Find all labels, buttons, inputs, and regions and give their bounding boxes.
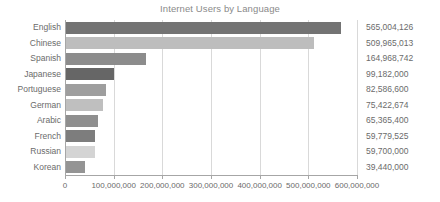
x-tick-label: 0 bbox=[63, 181, 67, 190]
bar-row: German75,422,674 bbox=[0, 98, 440, 114]
bar[interactable] bbox=[66, 130, 95, 142]
axis-tickmark bbox=[65, 175, 66, 179]
bar[interactable] bbox=[66, 68, 114, 80]
category-label: Korean bbox=[0, 160, 61, 176]
axis-tickmark bbox=[114, 175, 115, 179]
x-tick-label: 200,000,000 bbox=[140, 181, 185, 190]
bar-value-label: 509,965,013 bbox=[366, 36, 413, 52]
category-label: Spanish bbox=[0, 51, 61, 67]
bar[interactable] bbox=[66, 53, 146, 65]
chart-title: Internet Users by Language bbox=[0, 3, 440, 14]
x-tick-label: 400,000,000 bbox=[237, 181, 282, 190]
bar-row: Chinese509,965,013 bbox=[0, 36, 440, 52]
bar-value-label: 82,586,600 bbox=[366, 82, 409, 98]
bar[interactable] bbox=[66, 115, 98, 127]
category-label: English bbox=[0, 20, 61, 36]
bar[interactable] bbox=[66, 146, 95, 158]
category-label: Chinese bbox=[0, 36, 61, 52]
bar-chart: Internet Users by Language English565,00… bbox=[0, 0, 440, 202]
axis-tickmark bbox=[260, 175, 261, 179]
bar-value-label: 99,182,000 bbox=[366, 67, 409, 83]
bar-value-label: 65,365,400 bbox=[366, 113, 409, 129]
bar-row: Japanese99,182,000 bbox=[0, 67, 440, 83]
bar-value-label: 565,004,126 bbox=[366, 20, 413, 36]
category-label: Portuguese bbox=[0, 82, 61, 98]
category-label: Arabic bbox=[0, 113, 61, 129]
bar-value-label: 59,779,525 bbox=[366, 129, 409, 145]
bar-row: Spanish164,968,742 bbox=[0, 51, 440, 67]
category-label: French bbox=[0, 129, 61, 145]
bar[interactable] bbox=[66, 22, 341, 34]
x-tick-label: 100,000,000 bbox=[91, 181, 136, 190]
bar[interactable] bbox=[66, 99, 103, 111]
axis-tickmark bbox=[357, 175, 358, 179]
bar-row: English565,004,126 bbox=[0, 20, 440, 36]
bar-row: Korean39,440,000 bbox=[0, 160, 440, 176]
bar[interactable] bbox=[66, 161, 85, 173]
bar-row: French59,779,525 bbox=[0, 129, 440, 145]
bar[interactable] bbox=[66, 37, 314, 49]
x-tick-label: 600,000,000 bbox=[335, 181, 380, 190]
bar-value-label: 164,968,742 bbox=[366, 51, 413, 67]
bar-value-label: 59,700,000 bbox=[366, 144, 409, 160]
bar-value-label: 39,440,000 bbox=[366, 160, 409, 176]
x-tick-label: 300,000,000 bbox=[189, 181, 234, 190]
bar-row: Arabic65,365,400 bbox=[0, 113, 440, 129]
category-label: German bbox=[0, 98, 61, 114]
axis-tickmark bbox=[211, 175, 212, 179]
bar[interactable] bbox=[66, 84, 106, 96]
bar-row: Portuguese82,586,600 bbox=[0, 82, 440, 98]
category-label: Japanese bbox=[0, 67, 61, 83]
axis-tickmark bbox=[162, 175, 163, 179]
axis-tickmark bbox=[308, 175, 309, 179]
bar-row: Russian59,700,000 bbox=[0, 144, 440, 160]
x-tick-label: 500,000,000 bbox=[286, 181, 331, 190]
category-label: Russian bbox=[0, 144, 61, 160]
bar-value-label: 75,422,674 bbox=[366, 98, 409, 114]
